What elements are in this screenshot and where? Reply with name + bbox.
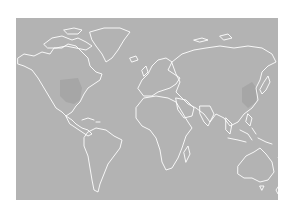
- ocean-background: [16, 18, 278, 200]
- world-map-graphic: [16, 18, 278, 200]
- world-map: [16, 18, 278, 200]
